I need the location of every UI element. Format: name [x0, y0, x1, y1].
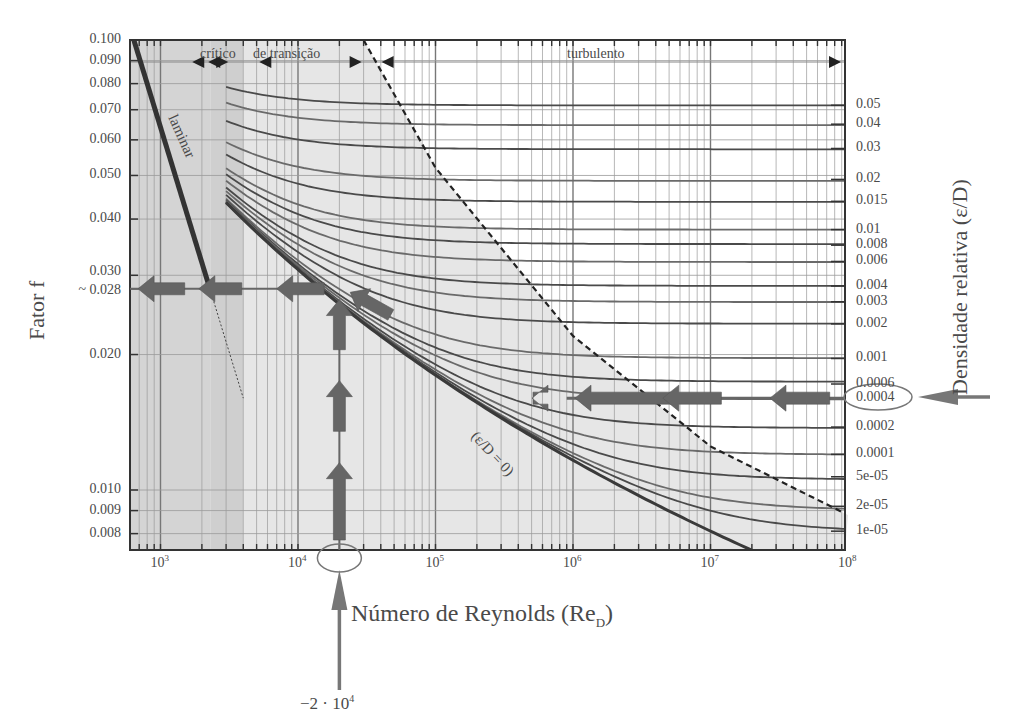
roughness-tick-label: 5e-05	[856, 468, 888, 484]
y-tick-label: 0.100	[41, 31, 121, 47]
roughness-tick-label: 0.006	[856, 252, 888, 268]
x-axis-label-sub: D	[596, 615, 605, 630]
x-axis-label: Número de Reynolds (ReD)	[351, 600, 613, 631]
roughness-tick-label: 0.05	[856, 96, 881, 112]
roughness-tick-label: 0.008	[856, 236, 888, 252]
region-label-turbulent: turbulento	[567, 46, 625, 62]
roughness-tick-label: 0.0002	[856, 418, 895, 434]
x-tick-label: 108	[838, 553, 857, 571]
y-tick-label: 0.080	[41, 75, 121, 91]
input-reynolds-exp: 4	[349, 693, 354, 704]
y-tick-label: 0.008	[41, 525, 121, 541]
x-axis-label-close: )	[605, 600, 613, 626]
roughness-tick-label: 0.015	[856, 192, 888, 208]
y-tick-label: 0.030	[41, 263, 121, 279]
y-tick-label: 0.090	[41, 52, 121, 68]
y-tick-label: 0.020	[41, 346, 121, 362]
roughness-tick-label: 0.03	[856, 139, 881, 155]
x-tick-label: 107	[701, 553, 720, 571]
x-tick-label: 106	[563, 553, 582, 571]
x-axis-label-main: Número de Reynolds (Re	[351, 600, 596, 626]
region-label-critical: crítico	[200, 46, 236, 62]
y-tick-label: 0.050	[41, 166, 121, 182]
x-tick-label: 103	[151, 553, 170, 571]
y-tick-label: ~ 0.028	[41, 282, 121, 298]
y-tick-label: 0.040	[41, 210, 121, 226]
roughness-tick-label: 0.003	[856, 293, 888, 309]
roughness-tick-label: 2e-05	[856, 497, 888, 513]
y-tick-label: 0.070	[41, 101, 121, 117]
x-tick-label: 104	[288, 553, 307, 571]
roughness-tick-label: 0.02	[856, 170, 881, 186]
roughness-tick-label: 0.002	[856, 315, 888, 331]
y-tick-label: 0.010	[41, 481, 121, 497]
roughness-tick-label: 0.001	[856, 349, 888, 365]
x-tick-label: 105	[426, 553, 445, 571]
roughness-tick-label: 0.004	[856, 277, 888, 293]
roughness-tick-label: 0.0001	[856, 445, 895, 461]
right-axis-label: Densidade relativa (ε/D)	[947, 179, 973, 395]
y-tick-label: 0.060	[41, 131, 121, 147]
roughness-tick-label: 1e-05	[856, 522, 888, 538]
roughness-tick-label: 0.01	[856, 221, 881, 237]
region-label-transition: de transição	[253, 46, 320, 62]
roughness-tick-label: 0.0004	[856, 389, 895, 405]
input-reynolds-value: −2 · 104	[300, 693, 354, 714]
y-axis-label: Fator f	[24, 281, 50, 340]
y-tick-label: 0.009	[41, 502, 121, 518]
input-reynolds-base: −2 · 10	[300, 694, 349, 713]
roughness-tick-label: 0.04	[856, 115, 881, 131]
